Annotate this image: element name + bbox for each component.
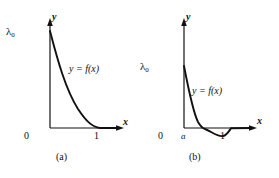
x-tick-1-b: 1 xyxy=(220,131,225,141)
lambda-subscript-b: 0 xyxy=(145,66,149,74)
curve-b xyxy=(184,66,251,136)
function-label-b: y = f(x) xyxy=(192,86,222,96)
lambda-zero-label-b: λ0 xyxy=(140,61,149,74)
panel-a-plot xyxy=(0,0,139,178)
panel-a: y x λ0 y = f(x) 0 1 (a) xyxy=(0,0,139,178)
panel-b: y x λ0 y = f(x) 0 a 1 (b) xyxy=(139,0,278,178)
lambda-subscript-a: 0 xyxy=(11,31,15,39)
x-axis-label-a: x xyxy=(123,117,128,127)
lambda-zero-label-a: λ0 xyxy=(6,26,15,39)
x-tick-0-b: 0 xyxy=(158,131,163,141)
x-tick-0-a: 0 xyxy=(24,131,29,141)
x-tick-a-b: a xyxy=(181,132,186,141)
y-axis-label-a: y xyxy=(52,12,56,22)
x-tick-1-a: 1 xyxy=(94,131,99,141)
y-axis-label-b: y xyxy=(186,12,190,22)
caption-b: (b) xyxy=(189,152,201,162)
figure-container: y x λ0 y = f(x) 0 1 (a) y x λ0 y = f(x) … xyxy=(0,0,279,178)
function-label-a: y = f(x) xyxy=(69,64,99,74)
x-axis-label-b: x xyxy=(257,116,262,126)
curve-a xyxy=(50,31,118,128)
caption-a: (a) xyxy=(56,152,67,162)
